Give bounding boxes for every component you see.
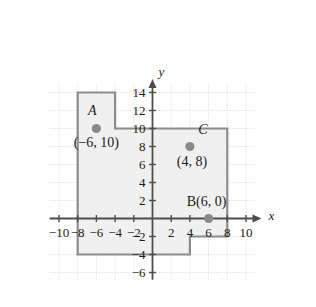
x-axis-label: x	[267, 208, 274, 223]
y-axis-arrowhead	[149, 79, 157, 88]
x-axis-tick-label: −4	[108, 225, 122, 240]
x-axis-tick-label: 8	[224, 225, 231, 240]
y-axis-tick-label: 14	[133, 85, 147, 100]
point-name-label-c: C	[198, 122, 208, 137]
y-axis-tick-label: 12	[133, 103, 146, 118]
point-coordinate-label-c: (4, 8)	[177, 154, 208, 170]
y-axis-tick-label: 8	[139, 139, 146, 154]
data-point-a	[92, 124, 101, 133]
y-axis-label: y	[157, 64, 165, 79]
y-axis-tick-label: 2	[139, 193, 146, 208]
x-axis-tick-label: −6	[89, 225, 103, 240]
x-axis-tick-label: 10	[240, 225, 253, 240]
x-axis-tick-label: −10	[49, 225, 69, 240]
y-axis-tick-label: 10	[133, 121, 146, 136]
coordinate-plane-svg: −10−8−6−4−22468101412108642−2−4−6 A(−6, …	[0, 0, 316, 307]
point-name-label-a: A	[87, 103, 97, 118]
x-axis-arrowhead	[252, 215, 261, 223]
x-axis-tick-label: 2	[168, 225, 175, 240]
x-axis-tick-label: −8	[71, 225, 85, 240]
y-axis-tick-label: −2	[132, 229, 146, 244]
x-axis-tick-label: 6	[205, 225, 212, 240]
data-point-b	[204, 214, 213, 223]
point-coordinate-label-a: (−6, 10)	[74, 135, 120, 151]
y-axis-tick-label: 6	[139, 157, 146, 172]
y-axis-tick-label: 4	[139, 175, 146, 190]
y-axis-tick-label: −6	[132, 265, 146, 280]
coordinate-plane-figure: −10−8−6−4−22468101412108642−2−4−6 A(−6, …	[0, 0, 316, 307]
y-axis-tick-label: −4	[132, 247, 146, 262]
point-coordinate-label-b: B(6, 0)	[187, 194, 227, 210]
data-point-c	[185, 142, 194, 151]
x-axis-tick-label: 4	[187, 225, 194, 240]
